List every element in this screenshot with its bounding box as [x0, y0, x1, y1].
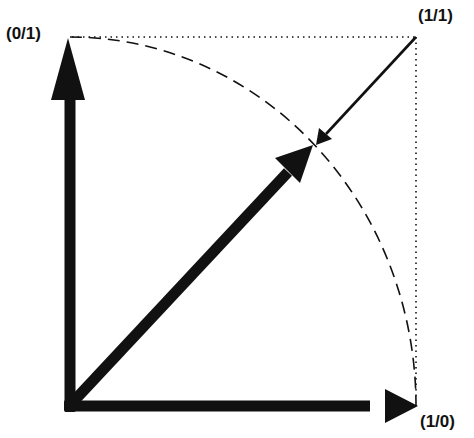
diagonal-arrow-shaft	[72, 172, 288, 403]
thin-arrow-shaft	[326, 37, 416, 134]
label-1-0: (1/0)	[420, 412, 455, 432]
vector-diagram	[0, 0, 474, 438]
horizontal-arrow-head	[385, 389, 418, 423]
label-0-1: (0/1)	[6, 24, 41, 44]
label-1-1: (1/1)	[418, 6, 453, 26]
vertical-arrow-head	[51, 38, 85, 100]
